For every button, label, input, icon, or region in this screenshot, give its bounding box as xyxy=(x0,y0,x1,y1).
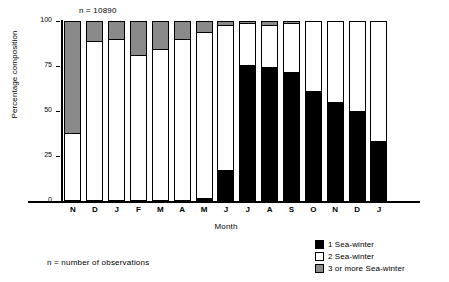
y-axis-tick-mark xyxy=(56,156,60,157)
bar-segment-three-or-more-sea-winter xyxy=(131,22,146,56)
legend-swatch xyxy=(315,252,324,261)
y-axis-tick-label: 75 xyxy=(44,61,52,69)
bar-slot xyxy=(149,21,171,201)
bar-slot xyxy=(324,21,346,201)
bar-slot xyxy=(62,21,84,201)
bar-segment-one-sea-winter xyxy=(328,102,343,200)
stacked-bar[interactable] xyxy=(196,21,213,201)
stacked-bar[interactable] xyxy=(130,21,147,201)
bar-segment-three-or-more-sea-winter xyxy=(87,22,102,42)
x-axis-tick-label: M xyxy=(149,204,171,215)
bar-slot xyxy=(128,21,150,201)
legend-item: 2 Sea-winter xyxy=(315,251,405,262)
bar-segment-two-sea-winter xyxy=(306,22,321,91)
plot-area xyxy=(62,21,390,201)
bar-segment-two-sea-winter xyxy=(175,40,190,200)
y-axis-tick-label: 100 xyxy=(40,16,52,24)
stacked-bar[interactable] xyxy=(261,21,278,201)
bar-segment-two-sea-winter xyxy=(240,24,255,65)
bar-slot xyxy=(106,21,128,201)
stacked-bar[interactable] xyxy=(370,21,387,201)
y-axis-tick-mark xyxy=(56,21,60,22)
bar-segment-one-sea-winter xyxy=(218,170,233,200)
x-axis-tick-label: M xyxy=(193,204,215,215)
x-axis-tick-label: J xyxy=(215,204,237,215)
bar-segment-three-or-more-sea-winter xyxy=(65,22,80,134)
x-axis-tick-label: J xyxy=(368,204,390,215)
bar-segment-three-or-more-sea-winter xyxy=(197,22,212,33)
bar-segment-two-sea-winter xyxy=(218,26,233,170)
y-axis-tick-mark xyxy=(56,66,60,67)
bar-slot xyxy=(237,21,259,201)
stacked-bar[interactable] xyxy=(239,21,256,201)
bar-slot xyxy=(302,21,324,201)
bar-segment-two-sea-winter xyxy=(371,22,386,141)
y-axis-tick-mark xyxy=(56,201,60,202)
bar-slot xyxy=(193,21,215,201)
stacked-bar[interactable] xyxy=(327,21,344,201)
y-axis-tick-label: 50 xyxy=(44,106,52,114)
bar-slot xyxy=(171,21,193,201)
bar-group xyxy=(62,21,390,201)
bar-segment-two-sea-winter xyxy=(328,22,343,102)
legend-item: 1 Sea-winter xyxy=(315,239,405,250)
bar-segment-one-sea-winter xyxy=(284,72,299,200)
bar-segment-two-sea-winter xyxy=(87,42,102,200)
y-axis-tick-mark xyxy=(56,111,60,112)
x-axis-tick-label: J xyxy=(237,204,259,215)
y-axis-tick-label: 25 xyxy=(44,151,52,159)
x-axis-tick-label: O xyxy=(302,204,324,215)
bar-segment-three-or-more-sea-winter xyxy=(153,22,168,50)
x-axis-tick-label: N xyxy=(324,204,346,215)
bar-slot xyxy=(281,21,303,201)
sample-size-annotation: n = 10890 xyxy=(79,6,117,15)
bar-segment-one-sea-winter xyxy=(240,65,255,200)
bar-segment-one-sea-winter xyxy=(306,91,321,200)
stacked-bar[interactable] xyxy=(108,21,125,201)
x-axis-tick-label: A xyxy=(171,204,193,215)
bar-segment-one-sea-winter xyxy=(262,67,277,201)
x-axis-tick-label: D xyxy=(84,204,106,215)
bar-segment-two-sea-winter xyxy=(262,26,277,67)
bar-slot xyxy=(259,21,281,201)
x-axis-tick-label: D xyxy=(346,204,368,215)
bar-segment-two-sea-winter xyxy=(197,33,212,199)
x-axis-tick-label: S xyxy=(281,204,303,215)
legend-label: 3 or more Sea-winter xyxy=(328,264,405,273)
y-axis-title: Percentage composition xyxy=(10,0,19,165)
bar-segment-three-or-more-sea-winter xyxy=(109,22,124,40)
stacked-bar[interactable] xyxy=(64,21,81,201)
stacked-bar[interactable] xyxy=(174,21,191,201)
bar-segment-two-sea-winter xyxy=(350,22,365,111)
bar-segment-two-sea-winter xyxy=(153,50,168,200)
legend-swatch xyxy=(315,264,324,273)
x-axis-title: Month xyxy=(62,222,390,231)
bar-slot xyxy=(368,21,390,201)
stacked-bar[interactable] xyxy=(283,21,300,201)
bar-segment-two-sea-winter xyxy=(131,56,146,200)
stacked-bar[interactable] xyxy=(217,21,234,201)
legend-label: 1 Sea-winter xyxy=(328,240,374,249)
legend-item: 3 or more Sea-winter xyxy=(315,263,405,274)
bar-segment-one-sea-winter xyxy=(371,141,386,200)
stacked-bar[interactable] xyxy=(152,21,169,201)
legend-swatch xyxy=(315,240,324,249)
bar-segment-two-sea-winter xyxy=(284,24,299,72)
x-axis-tick-label: A xyxy=(259,204,281,215)
bar-segment-one-sea-winter xyxy=(350,111,365,200)
x-axis-tick-labels: NDJFMAMJJASONDJ xyxy=(62,204,390,215)
x-axis-line xyxy=(28,201,420,203)
x-axis-tick-label: F xyxy=(128,204,150,215)
bar-segment-two-sea-winter xyxy=(65,134,80,200)
bar-segment-three-or-more-sea-winter xyxy=(175,22,190,40)
stacked-bar[interactable] xyxy=(305,21,322,201)
stacked-bar[interactable] xyxy=(349,21,366,201)
x-axis-tick-label: N xyxy=(62,204,84,215)
x-axis-tick-label: J xyxy=(106,204,128,215)
legend-label: 2 Sea-winter xyxy=(328,252,374,261)
stacked-bar[interactable] xyxy=(86,21,103,201)
y-axis-tick-label: 0 xyxy=(48,196,52,204)
footnote: n = number of observations xyxy=(47,258,149,267)
bar-segment-one-sea-winter xyxy=(197,198,212,200)
legend: 1 Sea-winter2 Sea-winter3 or more Sea-wi… xyxy=(315,239,405,275)
